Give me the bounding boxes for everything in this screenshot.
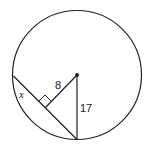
geometry-figure: 8 17 x <box>0 0 150 151</box>
label-perpendicular: 8 <box>55 79 61 91</box>
center-point <box>75 73 79 77</box>
right-angle-marker <box>39 95 52 102</box>
label-x: x <box>18 88 24 100</box>
circle-diagram: 8 17 x <box>0 0 150 151</box>
label-radius: 17 <box>80 102 92 114</box>
